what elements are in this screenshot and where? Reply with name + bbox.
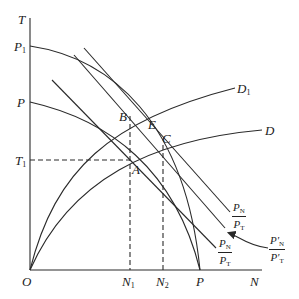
curve-d1 bbox=[30, 88, 235, 270]
label-p-xaxis: P bbox=[196, 275, 204, 288]
point-c: C bbox=[162, 132, 171, 145]
label-d1: D1 bbox=[237, 82, 250, 97]
ppf-diagram: T N O P1 P T1 N1 N2 P A B C E D1 D PN PT… bbox=[0, 0, 299, 299]
diagram-canvas bbox=[0, 0, 299, 299]
label-d: D bbox=[265, 124, 274, 137]
label-n1: N1 bbox=[122, 275, 135, 290]
arrow-icon bbox=[229, 233, 268, 248]
origin-label: O bbox=[22, 275, 31, 288]
point-a: A bbox=[132, 163, 140, 176]
price-ratio-prime: P'N P'T bbox=[269, 235, 285, 265]
label-n2: N2 bbox=[156, 275, 169, 290]
point-e: E bbox=[148, 118, 156, 131]
price-line-prime bbox=[74, 55, 225, 228]
label-p-yaxis: P bbox=[17, 96, 25, 109]
price-ratio-lower: PN PT bbox=[218, 238, 232, 268]
label-t1: T1 bbox=[15, 154, 26, 169]
x-axis-label: N bbox=[250, 275, 259, 288]
price-ratio-upper: PN PT bbox=[232, 202, 246, 232]
y-axis-label: T bbox=[18, 13, 25, 26]
ppf-inner-curve bbox=[30, 102, 200, 270]
point-b: B bbox=[119, 110, 127, 123]
label-p1: P1 bbox=[14, 40, 26, 55]
ppf-outer-curve bbox=[30, 46, 200, 270]
